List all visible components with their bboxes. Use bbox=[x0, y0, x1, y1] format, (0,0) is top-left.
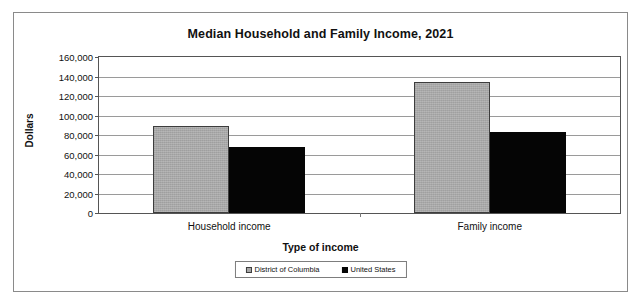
plot-area: 020,00040,00060,00080,000100,000120,0001… bbox=[98, 56, 621, 214]
x-axis-title: Type of income bbox=[14, 241, 627, 253]
y-tick-label: 40,000 bbox=[64, 169, 93, 180]
y-tick-label: 100,000 bbox=[59, 110, 93, 121]
y-tick-mark bbox=[95, 57, 99, 58]
legend-entry-us[interactable]: United States bbox=[342, 265, 396, 274]
chart-title: Median Household and Family Income, 2021 bbox=[14, 27, 627, 41]
legend-swatch-icon bbox=[342, 267, 348, 273]
bar-dc-1 bbox=[414, 82, 490, 213]
y-tick-mark bbox=[95, 213, 99, 214]
y-tick-mark bbox=[95, 96, 99, 97]
y-tick-label: 160,000 bbox=[59, 52, 93, 63]
y-tick-mark bbox=[95, 194, 99, 195]
bar-us-0 bbox=[229, 147, 305, 213]
gridline bbox=[99, 96, 620, 97]
x-category-label: Family income bbox=[458, 221, 522, 232]
gridline bbox=[99, 116, 620, 117]
y-tick-mark bbox=[95, 135, 99, 136]
x-tick-mark bbox=[360, 213, 361, 217]
bar-dc-0 bbox=[153, 126, 229, 213]
x-category-label: Household income bbox=[188, 221, 271, 232]
y-tick-mark bbox=[95, 174, 99, 175]
chart-frame: Median Household and Family Income, 2021… bbox=[13, 12, 628, 292]
y-tick-label: 20,000 bbox=[64, 188, 93, 199]
y-tick-label: 0 bbox=[88, 208, 93, 219]
legend-swatch-icon bbox=[245, 267, 251, 273]
legend-label: United States bbox=[351, 265, 396, 274]
chart-legend: District of ColumbiaUnited States bbox=[234, 261, 406, 278]
y-tick-mark bbox=[95, 77, 99, 78]
y-tick-mark bbox=[95, 155, 99, 156]
gridline bbox=[99, 77, 620, 78]
bar-us-1 bbox=[490, 132, 566, 213]
y-tick-label: 80,000 bbox=[64, 130, 93, 141]
y-tick-mark bbox=[95, 116, 99, 117]
legend-label: District of Columbia bbox=[254, 265, 319, 274]
y-tick-label: 140,000 bbox=[59, 71, 93, 82]
y-tick-label: 120,000 bbox=[59, 91, 93, 102]
legend-entry-dc[interactable]: District of Columbia bbox=[245, 265, 319, 274]
y-tick-label: 60,000 bbox=[64, 149, 93, 160]
y-axis-title: Dollars bbox=[24, 101, 35, 161]
